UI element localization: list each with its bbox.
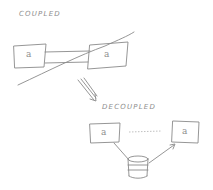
coupled-service-a-label: a — [26, 49, 31, 59]
indirect-link — [129, 131, 162, 132]
transition-arrow-icon — [78, 78, 97, 101]
sketch-canvas — [0, 0, 213, 190]
strike-through-line — [18, 32, 134, 85]
database-icon — [128, 156, 148, 178]
coupled-title: COUPLED — [19, 10, 61, 18]
coupled-service-b-label: a — [104, 49, 109, 59]
decoupled-service-b-label: a — [182, 126, 187, 136]
coupling-link — [45, 51, 90, 63]
connector-a-to-db — [114, 143, 129, 160]
decoupled-service-a-label: a — [101, 127, 106, 137]
decoupled-title: DECOUPLED — [102, 103, 156, 111]
connector-db-to-b — [149, 144, 175, 163]
